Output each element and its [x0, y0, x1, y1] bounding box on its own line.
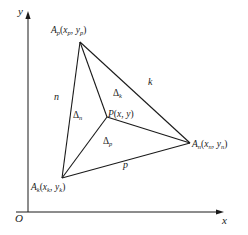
edge-p-label: p [123, 160, 128, 170]
vertex-top-coord-close: ) [83, 25, 86, 35]
edge-n-label: n [54, 92, 59, 102]
edge-k-label: k [148, 77, 152, 87]
edge-k-line [80, 42, 190, 143]
area-p-subscript: p [109, 140, 112, 147]
y-axis-arrowhead [25, 11, 30, 19]
vertex-bottom-left-label: Ak(xk, yk) [31, 183, 65, 193]
area-n-subscript: n [79, 114, 82, 121]
sub-area-p-label: Δp [103, 137, 112, 147]
y-axis-label: y [18, 6, 23, 17]
vertex-top-label: Ap(xp, yp) [51, 26, 86, 36]
vertex-bl-coord-close: ) [62, 182, 65, 192]
x-axis-label: x [222, 215, 227, 226]
area-k-subscript: k [119, 92, 122, 99]
point-coord-close: ) [131, 109, 134, 119]
vertex-right-label: An(xn, yn) [192, 140, 227, 150]
interior-point-label: P(x, y) [108, 110, 134, 120]
cevian-p-to-vertex-top [80, 42, 107, 117]
geometry-figure: y x O Ap(xp, yp) Ak(xk, yk) An(xn, yn) P… [0, 0, 248, 235]
origin-label: O [15, 213, 23, 224]
vertex-right-coord-close: ) [224, 139, 227, 149]
sub-area-k-label: Δk [113, 89, 122, 99]
cevian-p-to-vertex-right [107, 117, 190, 143]
sub-area-n-label: Δn [73, 111, 82, 121]
